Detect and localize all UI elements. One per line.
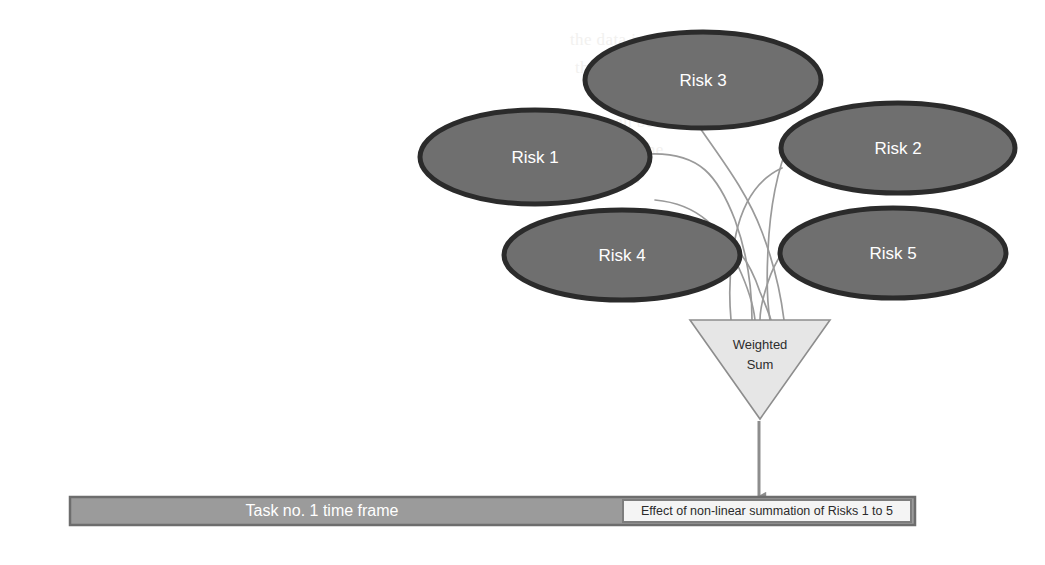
effect-of-summation-box[interactable]: Effect of non-linear summation of Risks … <box>623 500 911 522</box>
connector-secondary-b <box>767 140 790 320</box>
risk-node-risk-2[interactable]: Risk 2 <box>781 103 1015 193</box>
risk-1-label: Risk 1 <box>511 148 558 167</box>
risk-summation-diagram: Risk 3 Risk 1 Risk 2 Risk 4 Risk 5 Weigh… <box>0 0 1045 565</box>
risk-2-label: Risk 2 <box>874 139 921 158</box>
risk-node-risk-5[interactable]: Risk 5 <box>780 208 1006 298</box>
weighted-sum-label-line-2: Sum <box>747 357 774 372</box>
risk-node-risk-1[interactable]: Risk 1 <box>420 110 650 204</box>
risk-node-risk-3[interactable]: Risk 3 <box>585 32 821 128</box>
risk-3-label: Risk 3 <box>679 71 726 90</box>
diagram-canvas: the data into the the model f the can be… <box>0 0 1045 565</box>
risk-4-label: Risk 4 <box>598 246 645 265</box>
task-time-frame-bar-label: Task no. 1 time frame <box>246 502 399 519</box>
effect-of-summation-box-label: Effect of non-linear summation of Risks … <box>641 504 893 518</box>
weighted-sum-label-line-1: Weighted <box>733 337 788 352</box>
risk-5-label: Risk 5 <box>869 244 916 263</box>
weighted-sum-node[interactable]: Weighted Sum <box>690 320 830 419</box>
risk-node-risk-4[interactable]: Risk 4 <box>504 210 740 300</box>
